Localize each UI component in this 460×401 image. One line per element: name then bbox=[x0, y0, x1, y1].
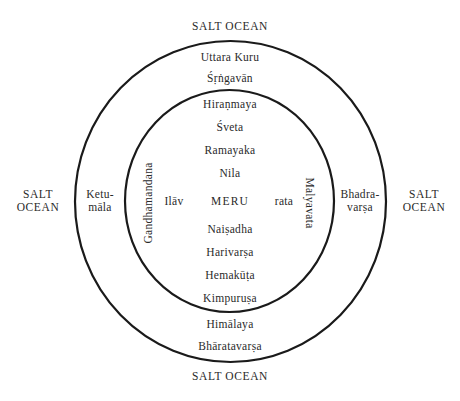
center-left-label: Ilāv bbox=[164, 195, 183, 208]
ocean-left-line2: OCEAN bbox=[17, 201, 60, 214]
center-right-label: rata bbox=[275, 195, 293, 208]
inner-right-vertical-label: Malyavata bbox=[304, 177, 316, 228]
outer-right-region: Bhadra- varṣa bbox=[340, 188, 379, 214]
ocean-left-line1: SALT bbox=[17, 188, 60, 201]
inner-top-region-3: Ramayaka bbox=[205, 144, 256, 157]
ocean-label-left: SALT OCEAN bbox=[17, 188, 60, 214]
center-meru-label: MERU bbox=[211, 195, 249, 208]
outer-left-line1: Ketu- bbox=[86, 188, 114, 201]
inner-top-region-2: Śveta bbox=[216, 121, 243, 134]
inner-bottom-region-2: Harivarṣa bbox=[206, 246, 253, 259]
inner-left-vertical-label: Gandhamandana bbox=[142, 162, 154, 243]
outer-right-line1: Bhadra- bbox=[340, 188, 379, 201]
outer-left-region: Ketu- māla bbox=[86, 188, 114, 214]
ocean-right-line2: OCEAN bbox=[403, 201, 446, 214]
inner-bottom-region-4: Kimpuruṣa bbox=[203, 292, 257, 305]
outer-left-line2: māla bbox=[86, 201, 114, 214]
ocean-label-top: SALT OCEAN bbox=[192, 20, 268, 33]
outer-top-region-1: Uttara Kuru bbox=[201, 51, 260, 64]
ocean-label-bottom: SALT OCEAN bbox=[192, 370, 268, 383]
inner-bottom-region-3: Hemakūṭa bbox=[205, 269, 255, 282]
outer-right-line2: varṣa bbox=[340, 201, 379, 214]
inner-bottom-region-1: Naiṣadha bbox=[207, 223, 252, 236]
ocean-label-right: SALT OCEAN bbox=[403, 188, 446, 214]
outer-top-region-2: Śṛṅgavān bbox=[207, 72, 253, 85]
ocean-right-line1: SALT bbox=[403, 188, 446, 201]
outer-bottom-region-2: Bhāratavarṣa bbox=[198, 340, 262, 353]
outer-bottom-region-1: Himālaya bbox=[206, 318, 253, 331]
inner-top-region-4: Nila bbox=[220, 167, 241, 180]
cosmography-diagram: SALT OCEAN SALT OCEAN SALT OCEAN SALT OC… bbox=[0, 0, 460, 401]
inner-top-region-1: Hiraṇmaya bbox=[203, 98, 257, 111]
